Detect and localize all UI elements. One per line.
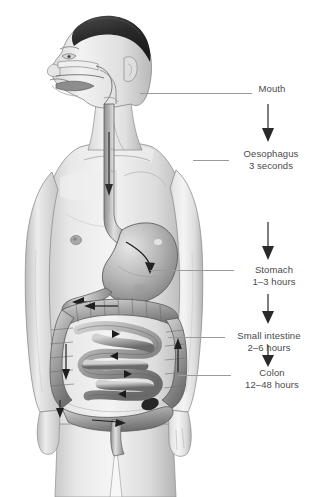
leader-line-colon: [178, 375, 231, 376]
label-mouth-name: Mouth: [259, 83, 286, 94]
flow-arrow-1: [261, 104, 275, 144]
label-oesophagus-name: Oesophagus: [244, 148, 299, 159]
digestive-system-diagram: Mouth Oesophagus 3 seconds Stomach 1–3 h…: [0, 0, 310, 497]
flow-arrow-3: [261, 294, 275, 326]
leader-line-oesophagus: [193, 160, 229, 161]
flow-arrow-2: [261, 222, 275, 262]
label-oesophagus-time: 3 seconds: [232, 160, 310, 172]
label-small-intestine-name: Small intestine: [237, 330, 300, 341]
label-small-intestine: Small intestine 2–6 hours: [228, 330, 310, 353]
label-oesophagus: Oesophagus 3 seconds: [232, 148, 310, 171]
label-mouth: Mouth: [236, 83, 308, 95]
label-colon-name: Colon: [259, 367, 284, 378]
label-stomach-name: Stomach: [255, 264, 293, 275]
anatomical-figure: [0, 0, 240, 497]
head-profile: [47, 16, 151, 108]
label-stomach-time: 1–3 hours: [238, 276, 310, 288]
leader-line-stomach: [150, 270, 234, 271]
label-small-intestine-time: 2–6 hours: [228, 342, 310, 354]
leader-line-small-intestine: [168, 337, 225, 338]
label-colon: Colon 12–48 hours: [234, 367, 310, 390]
label-colon-time: 12–48 hours: [234, 379, 310, 391]
label-stomach: Stomach 1–3 hours: [238, 264, 310, 287]
